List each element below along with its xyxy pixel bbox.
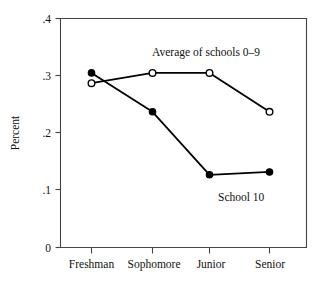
series-line-school10	[92, 73, 270, 175]
x-tick-label-freshman: Freshman	[69, 258, 115, 270]
data-point	[149, 109, 155, 115]
x-tick-label-junior: Junior	[197, 258, 226, 270]
y-tick-label-0.2: .2	[42, 127, 51, 139]
data-point	[206, 172, 212, 178]
y-tick-label-0.4: .4	[42, 13, 51, 25]
chart-figure: .4 .3 .2 .1 0 Freshman Sophomore Junior …	[0, 0, 323, 287]
y-tick-label-0.3: .3	[42, 70, 51, 82]
data-point	[149, 70, 156, 77]
data-point	[266, 169, 272, 175]
x-axis-tick-labels: Freshman Sophomore Junior Senior	[69, 258, 285, 271]
data-point	[88, 80, 95, 87]
data-point	[206, 70, 213, 77]
y-axis-ticks	[56, 19, 61, 248]
y-axis-title: Percent	[9, 115, 21, 150]
y-tick-label-0.1: .1	[42, 184, 51, 196]
line-chart: .4 .3 .2 .1 0 Freshman Sophomore Junior …	[0, 0, 323, 287]
data-point	[88, 70, 94, 76]
x-axis-ticks	[92, 248, 270, 254]
x-tick-label-sophomore: Sophomore	[127, 258, 180, 271]
annotation-school-10: School 10	[218, 191, 265, 203]
y-axis-tick-labels: .4 .3 .2 .1 0	[42, 13, 51, 254]
series-markers-school10	[88, 70, 272, 178]
data-point	[266, 109, 273, 116]
series-markers-average	[88, 70, 273, 116]
annotation-average-of-schools: Average of schools 0–9	[152, 46, 260, 59]
y-tick-label-0: 0	[45, 242, 51, 254]
x-tick-label-senior: Senior	[255, 258, 285, 270]
series-line-average	[92, 73, 270, 112]
